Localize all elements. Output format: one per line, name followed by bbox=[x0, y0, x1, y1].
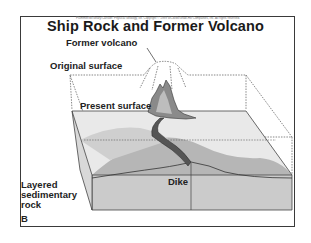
panel-letter: B bbox=[21, 214, 28, 224]
label-former-volcano: Former volcano bbox=[66, 38, 137, 48]
label-original-surface: Original surface bbox=[50, 61, 122, 71]
label-layered-rock-3: rock bbox=[21, 200, 41, 210]
label-dike: Dike bbox=[168, 177, 188, 187]
block-front-face bbox=[92, 175, 292, 210]
block-diagram bbox=[0, 0, 311, 243]
former-volcano-leader bbox=[147, 48, 156, 62]
label-present-surface: Present surface bbox=[80, 101, 151, 111]
